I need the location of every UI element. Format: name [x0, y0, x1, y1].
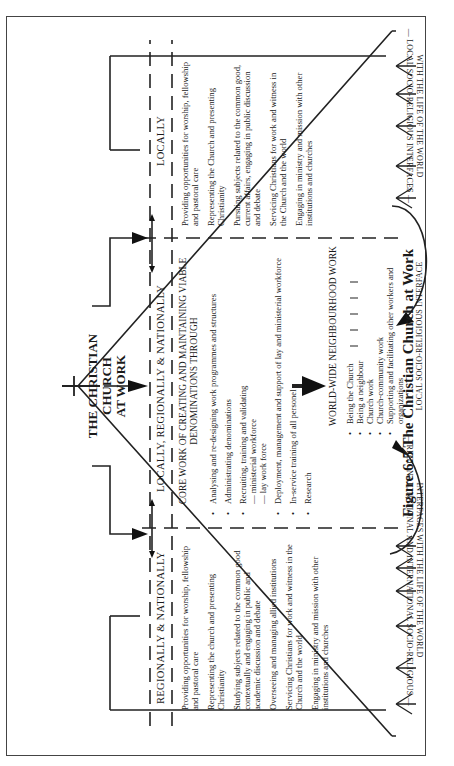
regional-item: Engaging in ministry and mission with ot… [310, 540, 330, 710]
diagram-title: THE CHRISTIAN CHURCH AT WORK [86, 306, 128, 466]
core-subitem: — ministerial workforce [248, 246, 258, 504]
core-item: In-service training of all personel [288, 246, 298, 504]
core-column: CORE WORK OF CREATING AND MAINTAINING VI… [178, 246, 318, 516]
level-label-local: LOCALLY [155, 116, 166, 166]
local-item: Servicing Christians for work and witnes… [268, 61, 288, 226]
worldwide-item: Church-community work [375, 236, 385, 424]
core-item: Analysing and re-designing work programm… [208, 246, 218, 504]
local-column: Providing opportunities for worship, fel… [180, 61, 320, 226]
core-item: Deployment, management and support of la… [273, 246, 283, 504]
core-item: Administrating denominations [223, 246, 233, 504]
worldwide-item: Being the Church [345, 236, 355, 424]
core-heading: CORE WORK OF CREATING AND MAINTAINING VI… [178, 246, 200, 516]
worldwide-heading: WORLD-WIDE NEIGHBOURHOOD WORK [328, 236, 339, 436]
regional-item: Representing the church and presenting C… [206, 540, 226, 710]
core-item: Recruiting, training and validating [238, 246, 248, 504]
worldwide-item: Being a neighbour [355, 236, 365, 424]
core-subitem: — lay work force [258, 246, 268, 504]
regional-column: Providing opportunities for worship, fel… [180, 540, 336, 710]
diagram-canvas: THE CHRISTIAN CHURCH AT WORK REGIONALLY … [0, 0, 454, 766]
title-line-1: THE CHRISTIAN CHURCH [86, 306, 114, 466]
core-item: Research [303, 246, 313, 504]
figure-caption: Figure 6:5 The Christian Church at Work [400, 0, 417, 766]
regional-item: Providing opportunities for worship, fel… [180, 540, 200, 710]
local-item: Pursuing subjects related to the common … [232, 61, 262, 226]
workforce-subitems: — ministerial workforce — lay work force [248, 246, 268, 516]
regional-item: Servicing Christians for work and witnes… [284, 540, 304, 710]
local-item: Providing opportunities for worship, fel… [180, 61, 200, 226]
regional-item: Overseeing and managing allied instituti… [268, 540, 278, 710]
regional-item: Studying subjects related to the common … [232, 540, 262, 710]
local-item: Engaging in ministry and mission with ot… [294, 61, 314, 226]
title-line-2: AT WORK [114, 306, 128, 466]
level-label-core: LOCALLY, REGIONALLY & NATIONALLY [155, 285, 166, 492]
worldwide-item: Church work [365, 236, 375, 424]
local-item: Representing the Church and presenting C… [206, 61, 226, 226]
level-label-regional: REGIONALLY & NATIONALLY [155, 551, 166, 704]
